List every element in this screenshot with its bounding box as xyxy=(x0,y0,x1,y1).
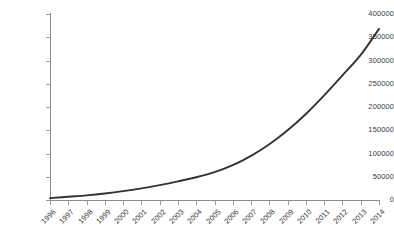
line-chart: 4000003500003000002500002000001500001000… xyxy=(0,0,394,242)
series-line-series-1 xyxy=(0,0,394,242)
